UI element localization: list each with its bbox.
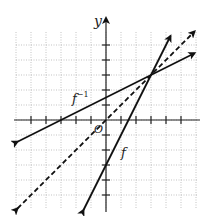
function-inverse-graph: y O f f−1: [0, 0, 203, 216]
f-label: f: [120, 145, 128, 160]
origin-label: O: [94, 123, 103, 136]
y-axis-label: y: [93, 13, 103, 29]
f-inverse-label: f−1: [71, 90, 89, 106]
